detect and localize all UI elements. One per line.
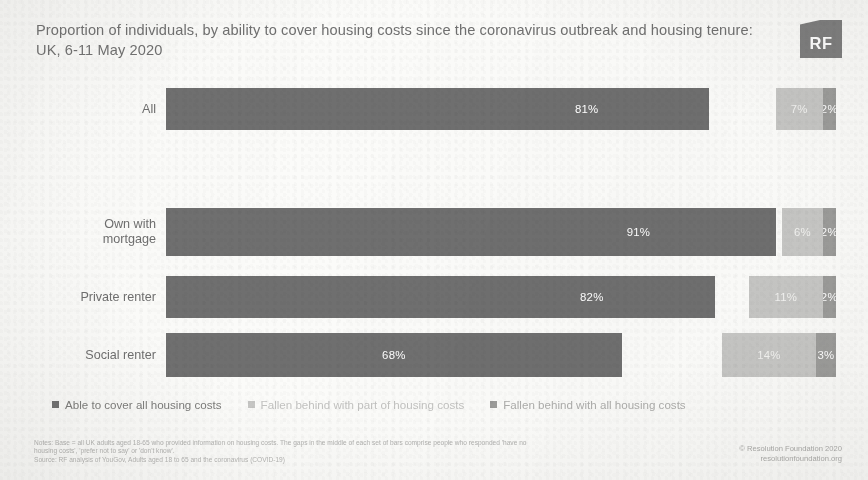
bar-value-label: 81% [575, 103, 598, 115]
bar-segment[interactable]: 11% [749, 276, 823, 318]
legend-item-behind-all[interactable]: Fallen behind with all housing costs [490, 398, 685, 411]
chart-row: All81%7%2% [36, 88, 836, 130]
chart-footer: Notes: Base = all UK adults aged 18-65 w… [34, 439, 842, 464]
row-label: All [36, 102, 156, 117]
bar-value-label: 2% [823, 103, 836, 115]
bar-segment[interactable]: 7% [776, 88, 823, 130]
bar-value-label: 3% [818, 349, 835, 361]
logo-text: RF [800, 34, 842, 53]
bar-value-label: 2% [823, 291, 836, 303]
legend-item-able-to-cover[interactable]: Able to cover all housing costs [52, 398, 222, 411]
credit-line-1: © Resolution Foundation 2020 [739, 444, 842, 454]
chart-row: Private renter82%11%2% [36, 276, 836, 318]
row-label: Social renter [36, 348, 156, 363]
row-label: Private renter [36, 290, 156, 305]
bar-segment[interactable]: 81% [166, 88, 709, 130]
chart-row: Own withmortgage91%6%2% [36, 208, 836, 256]
credit-line-2: resolutionfoundation.org [739, 454, 842, 464]
chart-page: Proportion of individuals, by ability to… [0, 0, 868, 480]
chart-plot-area: All81%7%2%Own withmortgage91%6%2%Private… [36, 78, 836, 388]
row-label: Own withmortgage [36, 217, 156, 247]
legend-label: Fallen behind with part of housing costs [261, 398, 465, 411]
bar-value-label: 82% [580, 291, 603, 303]
legend-swatch-icon [52, 401, 59, 408]
bar-track: 68%14%3% [166, 333, 836, 377]
bar-value-label: 91% [627, 226, 650, 238]
chart-legend: Able to cover all housing costs Fallen b… [52, 398, 838, 411]
bar-track: 81%7%2% [166, 88, 836, 130]
legend-item-behind-part[interactable]: Fallen behind with part of housing costs [248, 398, 465, 411]
bar-value-label: 7% [791, 103, 808, 115]
bar-value-label: 6% [794, 226, 811, 238]
bar-segment[interactable]: 82% [166, 276, 715, 318]
chart-notes: Notes: Base = all UK adults aged 18-65 w… [34, 439, 527, 464]
chart-row: Social renter68%14%3% [36, 333, 836, 377]
notes-line-2: housing costs', 'prefer not to say' or '… [34, 447, 527, 455]
bar-value-label: 68% [382, 349, 405, 361]
bar-track: 82%11%2% [166, 276, 836, 318]
bar-segment[interactable]: 6% [782, 208, 822, 256]
legend-label: Fallen behind with all housing costs [503, 398, 685, 411]
legend-swatch-icon [248, 401, 255, 408]
resolution-foundation-logo: RF [800, 20, 842, 58]
page-title: Proportion of individuals, by ability to… [36, 20, 766, 60]
logo-stripe [800, 20, 842, 26]
legend-swatch-icon [490, 401, 497, 408]
bar-segment[interactable]: 2% [823, 88, 836, 130]
bar-segment[interactable]: 2% [823, 208, 836, 256]
bar-segment[interactable]: 2% [823, 276, 836, 318]
bar-segment[interactable]: 68% [166, 333, 622, 377]
bar-value-label: 14% [757, 349, 780, 361]
bar-segment[interactable]: 3% [816, 333, 836, 377]
notes-line-3: Source: RF analysis of YouGov, Adults ag… [34, 456, 527, 464]
bar-segment[interactable]: 91% [166, 208, 776, 256]
bar-track: 91%6%2% [166, 208, 836, 256]
legend-label: Able to cover all housing costs [65, 398, 222, 411]
chart-header: Proportion of individuals, by ability to… [36, 20, 766, 60]
chart-credit: © Resolution Foundation 2020 resolutionf… [739, 444, 842, 464]
bar-segment[interactable]: 14% [722, 333, 816, 377]
bar-value-label: 11% [774, 291, 797, 303]
notes-line-1: Notes: Base = all UK adults aged 18-65 w… [34, 439, 527, 447]
bar-value-label: 2% [823, 226, 836, 238]
